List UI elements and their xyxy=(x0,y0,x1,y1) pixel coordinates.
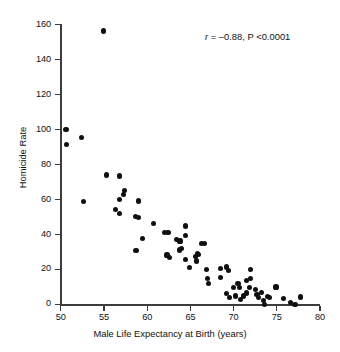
y-tick-120 xyxy=(55,94,60,95)
x-tick-55 xyxy=(103,306,104,311)
data-point xyxy=(79,135,84,140)
data-point xyxy=(194,258,199,263)
x-tick-label-65: 65 xyxy=(176,312,204,322)
data-point xyxy=(226,268,231,273)
data-point xyxy=(202,241,207,246)
data-point xyxy=(253,287,258,292)
y-axis-line xyxy=(60,24,62,306)
x-tick-65 xyxy=(190,306,191,311)
data-point xyxy=(101,28,106,33)
y-tick-60 xyxy=(55,199,60,200)
data-point xyxy=(183,223,188,228)
data-point xyxy=(177,238,182,243)
data-point xyxy=(273,284,278,289)
data-point xyxy=(179,246,184,251)
data-point xyxy=(247,285,252,290)
correlation-annotation: r = –0.88, P <0.0001 xyxy=(205,31,290,42)
data-point xyxy=(196,252,201,257)
y-tick-140 xyxy=(55,59,60,60)
data-point xyxy=(248,276,253,281)
scatter-plot-figure: 160140120100806040200 50556065707580 r =… xyxy=(0,0,340,352)
x-tick-60 xyxy=(147,306,148,311)
x-tick-label-75: 75 xyxy=(263,312,291,322)
x-tick-75 xyxy=(276,306,277,311)
x-tick-80 xyxy=(319,306,320,311)
data-point xyxy=(117,197,122,202)
y-tick-label-140: 140 xyxy=(23,54,51,64)
data-point xyxy=(298,294,303,299)
data-point xyxy=(117,173,122,178)
data-point xyxy=(104,172,109,177)
data-point xyxy=(262,302,267,307)
data-point xyxy=(136,198,141,203)
data-point xyxy=(248,267,253,272)
data-point xyxy=(183,257,188,262)
x-tick-label-80: 80 xyxy=(306,312,334,322)
y-tick-label-0: 0 xyxy=(23,298,51,308)
y-tick-label-40: 40 xyxy=(23,229,51,239)
data-point xyxy=(267,295,272,300)
data-point xyxy=(281,296,286,301)
data-point xyxy=(237,285,242,290)
y-tick-20 xyxy=(55,269,60,270)
x-tick-label-55: 55 xyxy=(90,312,118,322)
x-tick-70 xyxy=(233,306,234,311)
y-axis-title: Homicide Rate xyxy=(17,93,28,223)
data-point xyxy=(63,127,68,132)
x-tick-50 xyxy=(60,306,61,311)
y-tick-label-160: 160 xyxy=(23,19,51,29)
plot-area: 160140120100806040200 50556065707580 r =… xyxy=(0,0,340,352)
data-point xyxy=(165,230,170,235)
data-point xyxy=(140,236,145,241)
x-tick-label-70: 70 xyxy=(220,312,248,322)
y-tick-160 xyxy=(55,24,60,25)
data-point xyxy=(136,215,141,220)
data-point xyxy=(167,255,172,260)
data-point xyxy=(259,290,264,295)
data-point xyxy=(227,295,232,300)
data-point xyxy=(183,233,188,238)
y-tick-label-20: 20 xyxy=(23,263,51,273)
data-point xyxy=(204,267,209,272)
data-point xyxy=(187,265,192,270)
data-point xyxy=(292,302,297,307)
r-value-text: = –0.88, P <0.0001 xyxy=(208,31,290,42)
data-point xyxy=(117,211,122,216)
y-tick-0 xyxy=(55,304,60,305)
data-point xyxy=(122,188,127,193)
data-point xyxy=(206,281,211,286)
y-tick-100 xyxy=(55,129,60,130)
y-tick-80 xyxy=(55,164,60,165)
data-point xyxy=(218,275,223,280)
data-point xyxy=(151,221,156,226)
data-point xyxy=(81,199,86,204)
x-tick-label-60: 60 xyxy=(133,312,161,322)
y-tick-40 xyxy=(55,234,60,235)
data-point xyxy=(64,142,69,147)
x-tick-label-50: 50 xyxy=(47,312,75,322)
data-point xyxy=(231,285,236,290)
data-point xyxy=(218,266,223,271)
x-axis-title: Male Life Expectancy at Birth (years) xyxy=(0,328,340,339)
data-point xyxy=(133,248,138,253)
data-point xyxy=(244,290,249,295)
